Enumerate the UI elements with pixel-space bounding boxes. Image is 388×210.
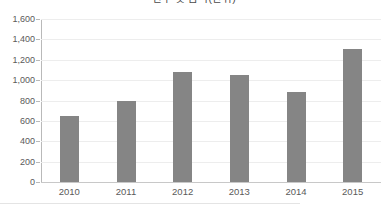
y-axis-tick-mark [36, 121, 40, 122]
gridline [41, 182, 381, 183]
y-axis-tick-mark [36, 101, 40, 102]
x-axis-tick-label-2010: 2010 [43, 185, 95, 199]
y-axis-tick-mark [36, 80, 40, 81]
y-axis-tick-label: 600 [20, 115, 35, 127]
x-axis-tick-label-2012: 2012 [157, 185, 209, 199]
bar-2011[interactable] [117, 101, 136, 183]
y-axis-tick-mark [36, 141, 40, 142]
y-axis-labels: 02004006008001,0001,2001,4001,600 [0, 19, 35, 182]
y-axis-tick-mark [36, 162, 40, 163]
x-axis-tick-label-2013: 2013 [213, 185, 265, 199]
y-axis-tick-mark [36, 19, 40, 20]
chart-title: 건수 및 금액(단위) [0, 0, 388, 5]
y-axis-tick-label: 400 [20, 135, 35, 147]
y-axis-tick-label: 800 [20, 95, 35, 107]
x-axis-tick-label-2015: 2015 [327, 185, 379, 199]
bar-2014[interactable] [287, 92, 306, 182]
bar-2012[interactable] [173, 72, 192, 182]
bottom-divider [0, 203, 300, 204]
bar-2015[interactable] [343, 49, 362, 182]
x-axis-tick-label-2011: 2011 [100, 185, 152, 199]
y-axis-tick-mark [36, 60, 40, 61]
y-axis-tick-mark [36, 182, 40, 183]
y-axis-tick-label: 1,000 [12, 74, 35, 86]
bar-chart-figure: 건수 및 금액(단위) 02004006008001,0001,2001,400… [0, 0, 388, 210]
y-axis-tick-label: 1,200 [12, 54, 35, 66]
bars-layer [41, 19, 381, 182]
y-axis-tick-label: 1,400 [12, 33, 35, 45]
bar-2010[interactable] [60, 116, 79, 182]
x-axis-labels: 201020112012201320142015 [41, 185, 381, 199]
y-axis-tick-label: 0 [30, 176, 35, 188]
y-axis-tick-label: 200 [20, 156, 35, 168]
y-axis-tick-mark [36, 39, 40, 40]
y-axis-tick-label: 1,600 [12, 13, 35, 25]
x-axis-tick-label-2014: 2014 [270, 185, 322, 199]
bar-2013[interactable] [230, 75, 249, 182]
